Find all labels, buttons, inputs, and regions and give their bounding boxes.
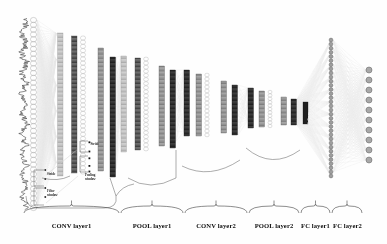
layer-label-conv-layer-1: CONV layer1 bbox=[42, 222, 102, 229]
conv-layer-2-maps bbox=[184, 70, 238, 136]
pool-layer-2-neurons bbox=[268, 90, 272, 127]
pool-layer-2-maps bbox=[248, 88, 297, 128]
input-neuron-column bbox=[30, 17, 36, 210]
annotation-filter-window-input: Filter window bbox=[47, 190, 58, 197]
annotation-stride-input: Stride bbox=[47, 173, 55, 177]
annotation-filter-window-line2: window bbox=[47, 193, 58, 197]
layer-braces bbox=[24, 201, 362, 214]
zoom-region-outlines bbox=[26, 148, 300, 208]
diagram-canvas bbox=[0, 0, 387, 244]
fc-layer-2-output-neurons bbox=[366, 67, 372, 163]
input-signal-waveform bbox=[19, 18, 30, 210]
conv-layer-1-neurons bbox=[80, 36, 85, 174]
cnn-architecture-figure: Stride Filter window Stride Pooling wind… bbox=[0, 0, 387, 244]
annotation-stride-pool: Stride bbox=[91, 143, 99, 147]
conv-layer-1-maps bbox=[58, 33, 116, 177]
fc-layer-1-neurons bbox=[329, 38, 333, 178]
annotation-softmax: Softmax bbox=[307, 112, 311, 124]
annotation-pooling-window: Pooling window bbox=[85, 174, 96, 181]
pool-layer-1-neurons bbox=[144, 57, 149, 151]
annotation-pooling-window-line2: window bbox=[85, 177, 96, 181]
layer-label-fc-layer-2: FC layer2 bbox=[324, 222, 371, 229]
conv-layer-2-neurons bbox=[205, 73, 209, 137]
layer-label-conv-layer-2: CONV layer2 bbox=[186, 222, 246, 229]
layer-label-pool-layer-1: POOL layer1 bbox=[122, 222, 182, 229]
